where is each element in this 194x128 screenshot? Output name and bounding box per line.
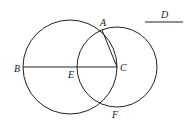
- line-ac: [102, 30, 117, 67]
- label-e: E: [68, 70, 74, 80]
- label-d: D: [161, 10, 168, 20]
- label-b: B: [14, 64, 20, 74]
- label-c: C: [120, 63, 127, 73]
- geometry-diagram: A B C D E F: [0, 0, 194, 128]
- label-a: A: [100, 18, 106, 28]
- label-f: F: [112, 110, 118, 120]
